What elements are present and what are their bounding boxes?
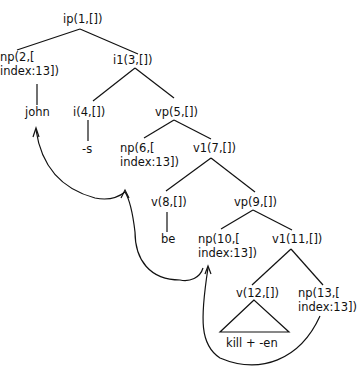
tree-edges (0, 0, 361, 378)
edge-n11-n13 (291, 249, 323, 285)
node-v-12: v(12,[]) (236, 286, 279, 300)
node-np-10-line2: index:13]) (198, 246, 257, 260)
arrow-n13-to-n10 (203, 268, 320, 365)
node-np-6-line2: index:13]) (120, 155, 179, 169)
leaf-john: john (25, 105, 50, 119)
node-np-10-line1: np(10,[ (198, 232, 240, 246)
node-i1-3: i1(3,[]) (113, 53, 152, 67)
node-np-2-line1: np(2,[ (0, 50, 35, 64)
arrow-n6-to-john (36, 130, 125, 199)
node-np-13-line1: np(13,[ (298, 286, 340, 300)
edge-n7-n9 (211, 158, 255, 192)
node-vp-9: vp(9,[]) (234, 195, 277, 209)
leaf-kill-en: kill + -en (226, 336, 278, 350)
node-np-2-line2: index:13]) (0, 64, 59, 78)
node-i-4: i(4,[]) (73, 105, 105, 119)
edge-n3-n5 (135, 68, 174, 98)
node-np-6-line1: np(6,[ (120, 141, 155, 155)
triangle-v12 (220, 300, 289, 332)
edge-n5-n7 (174, 120, 211, 139)
node-ip-1: ip(1,[]) (63, 12, 102, 26)
edge-n9-n10 (221, 210, 253, 229)
syntax-tree-diagram: ip(1,[]) np(2,[ index:13]) i1(3,[]) john… (0, 0, 361, 378)
edge-n1-n2 (17, 29, 80, 50)
edge-n1-n3 (80, 29, 138, 54)
edge-n5-n6 (144, 120, 174, 138)
edge-n3-n4 (93, 68, 135, 101)
edge-n11-n12 (252, 249, 291, 285)
edge-n9-n11 (253, 210, 292, 230)
node-np-13-line2: index:13]) (298, 300, 357, 314)
leaf-s: -s (82, 142, 92, 156)
node-v1-7: v1(7,[]) (193, 141, 236, 155)
leaf-be: be (161, 232, 175, 246)
node-v-8: v(8,[]) (151, 195, 187, 209)
node-v1-11: v1(11,[]) (272, 232, 322, 246)
node-vp-5: vp(5,[]) (155, 105, 198, 119)
